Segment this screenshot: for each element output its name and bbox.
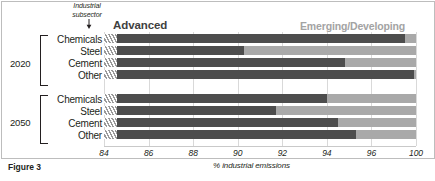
- figure-caption: Figure 3: [8, 162, 41, 172]
- bar-row-2020-chemicals: [104, 34, 416, 43]
- category-label-2020-chemicals: Chemicals: [2, 34, 102, 45]
- bar-row-2020-other: [104, 70, 416, 79]
- category-label-2050-other: Other: [2, 130, 102, 141]
- bar-segment-advanced: [104, 46, 244, 55]
- axis-break-marker-icon: [104, 34, 117, 43]
- x-tick-label-94: 94: [322, 148, 331, 158]
- plot-area: [104, 32, 416, 146]
- x-tick-label-86: 86: [144, 148, 153, 158]
- bar-segment-advanced: [104, 130, 356, 139]
- bar-row-2050-steel: [104, 106, 416, 115]
- bar-segment-advanced: [104, 118, 338, 127]
- bar-segment-emerging: [327, 94, 416, 103]
- x-tick-label-92: 92: [278, 148, 287, 158]
- axis-break-marker-icon: [104, 70, 117, 79]
- x-tick-label-96: 96: [367, 148, 376, 158]
- bar-segment-emerging: [276, 106, 416, 115]
- bar-segment-advanced: [104, 58, 345, 67]
- bar-segment-emerging: [345, 58, 416, 67]
- bar-segment-advanced: [104, 70, 414, 79]
- bar-row-2050-chemicals: [104, 94, 416, 103]
- axis-break-marker-icon: [104, 94, 117, 103]
- axis-break-marker-icon: [104, 106, 117, 115]
- gridline-100: [416, 32, 417, 146]
- bar-segment-emerging: [338, 118, 416, 127]
- bar-segment-advanced: [104, 106, 276, 115]
- bar-row-2050-cement: [104, 118, 416, 127]
- category-label-2050-steel: Steel: [2, 106, 102, 117]
- bar-row-2020-cement: [104, 58, 416, 67]
- category-label-2050-chemicals: Chemicals: [2, 94, 102, 105]
- x-tick-label-88: 88: [189, 148, 198, 158]
- bar-row-2050-other: [104, 130, 416, 139]
- bar-segment-emerging: [244, 46, 416, 55]
- legend-label-advanced: Advanced: [113, 19, 167, 31]
- axis-break-marker-icon: [104, 130, 117, 139]
- x-tick-label-90: 90: [233, 148, 242, 158]
- category-label-column: Chemicals Steel Cement Other Chemicals S…: [0, 0, 102, 181]
- x-axis-line: [104, 146, 416, 147]
- x-tick-label-84: 84: [99, 148, 108, 158]
- bar-segment-advanced: [104, 34, 405, 43]
- bar-row-2020-steel: [104, 46, 416, 55]
- x-tick-label-100: 100: [409, 148, 423, 158]
- category-label-2020-cement: Cement: [2, 58, 102, 69]
- axis-break-marker-icon: [104, 58, 117, 67]
- bar-segment-emerging: [414, 70, 416, 79]
- x-axis-title: % industrial emissions: [213, 161, 290, 170]
- axis-break-marker-icon: [104, 46, 117, 55]
- bar-segment-emerging: [405, 34, 416, 43]
- bar-segment-emerging: [356, 130, 416, 139]
- legend-label-emerging: Emerging/Developing: [300, 20, 405, 32]
- axis-break-marker-icon: [104, 118, 117, 127]
- bar-segment-advanced: [104, 94, 327, 103]
- category-label-2020-steel: Steel: [2, 46, 102, 57]
- category-label-2050-cement: Cement: [2, 118, 102, 129]
- category-label-2020-other: Other: [2, 70, 102, 81]
